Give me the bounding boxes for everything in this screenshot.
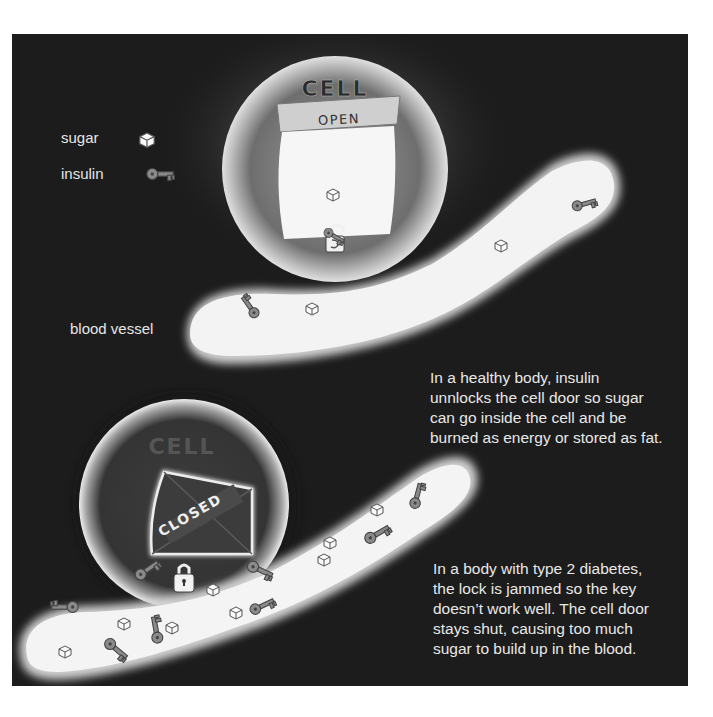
caption-line: doesn’t work well. The cell door	[433, 599, 649, 619]
legend-insulin-label: insulin	[61, 165, 104, 183]
sugar-cube-icon	[230, 607, 242, 619]
sugar-cube-icon	[327, 189, 339, 201]
healthy-caption: In a healthy body, insulin unnlocks the …	[430, 368, 663, 448]
caption-line: In a body with type 2 diabetes,	[433, 559, 649, 579]
sugar-cube-icon	[371, 504, 383, 516]
caption-line: In a healthy body, insulin	[430, 368, 663, 388]
caption-line: the lock is jammed so the key	[433, 579, 649, 599]
illustration-panel: CELL OPEN CELL CLOSED sugar insulin bloo…	[12, 34, 688, 686]
sugar-cube-icon	[306, 303, 318, 315]
caption-line: sugar to build up in the blood.	[433, 639, 649, 659]
legend-sugar-label: sugar	[61, 129, 99, 147]
sugar-cube-icon	[495, 240, 507, 252]
caption-line: burned as energy or stored as fat.	[430, 428, 663, 448]
sugar-cube-icon	[166, 622, 178, 634]
caption-line: can go inside the cell and be	[430, 408, 663, 428]
diabetes-caption: In a body with type 2 diabetes, the lock…	[433, 559, 649, 659]
open-door-sign: OPEN	[318, 111, 361, 128]
sugar-cube-icon	[318, 554, 330, 566]
sugar-cube-icon	[324, 537, 336, 549]
caption-line: stays shut, causing too much	[433, 619, 649, 639]
diabetic-cell-title: CELL	[148, 434, 215, 459]
healthy-cell-title: CELL	[301, 76, 368, 101]
sugar-cube-icon	[59, 646, 71, 658]
caption-line: unnlocks the cell door so sugar	[430, 388, 663, 408]
blood-vessel-label: blood vessel	[70, 320, 153, 338]
sugar-cube-icon	[118, 618, 130, 630]
sugar-cube-icon	[140, 133, 154, 147]
sugar-cube-icon	[207, 584, 219, 596]
